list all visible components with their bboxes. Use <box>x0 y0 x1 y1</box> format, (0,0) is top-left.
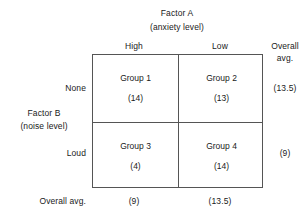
row-header-loud: Loud <box>67 148 86 159</box>
factor-b-subtitle: (noise level) <box>20 121 67 132</box>
matrix-cell-group-3: Group 3 (4) <box>93 123 178 190</box>
cell-group-value: (13) <box>214 92 229 105</box>
column-margin-value-high: (9) <box>129 196 140 207</box>
overall-average-header-line1: Overall <box>271 41 299 52</box>
factor-a-subtitle: (anxiety level) <box>150 22 204 33</box>
factor-b-title: Factor B <box>28 108 61 119</box>
matrix-cell-group-4: Group 4 (14) <box>179 123 264 190</box>
factor-a-title: Factor A <box>161 8 193 19</box>
row-header-none: None <box>65 83 86 94</box>
column-header-low: Low <box>212 41 228 52</box>
factorial-design-diagram: Factor A (anxiety level) High Low Factor… <box>0 0 306 221</box>
column-header-high: High <box>125 41 143 52</box>
cell-group-value: (14) <box>128 92 143 105</box>
overall-average-header-line2: avg. <box>277 53 293 64</box>
cell-group-value: (4) <box>130 160 140 173</box>
cell-group-label: Group 2 <box>206 72 237 85</box>
row-margin-value-none: (13.5) <box>274 83 297 94</box>
row-margin-value-loud: (9) <box>280 148 291 159</box>
overall-average-bottom-label: Overall avg. <box>39 196 86 207</box>
matrix-cell-group-1: Group 1 (14) <box>93 55 178 122</box>
column-margin-value-low: (13.5) <box>209 196 232 207</box>
matrix-box: Group 1 (14) Group 2 (13) Group 3 (4) Gr… <box>92 54 263 188</box>
cell-group-label: Group 3 <box>120 140 151 153</box>
matrix-cell-group-2: Group 2 (13) <box>179 55 264 122</box>
cell-group-value: (14) <box>214 160 229 173</box>
cell-group-label: Group 4 <box>206 140 237 153</box>
cell-group-label: Group 1 <box>120 72 151 85</box>
